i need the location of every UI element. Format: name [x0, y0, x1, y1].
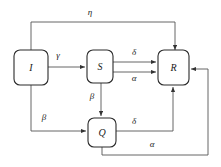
edge-delta-q-to-r: δ [116, 87, 173, 131]
node-label-s: S [98, 61, 103, 72]
node-i[interactable]: I [14, 50, 48, 85]
node-label-q: Q [98, 127, 106, 138]
edge-beta-i-to-q: β [31, 85, 86, 131]
edge-eta-i-to-r: η [31, 7, 175, 50]
edge-label-alpha-q-r: α [150, 139, 155, 149]
edge-label-delta-q-r: δ [132, 116, 137, 126]
edge-beta-s-to-q: β [89, 83, 101, 116]
edge-label-delta-s-r: δ [132, 47, 137, 57]
edge-label-beta-s-q: β [89, 91, 95, 101]
edge-delta-s-to-r: δ [113, 47, 156, 62]
diagram-canvas: η β γ δ α β δ [0, 0, 221, 167]
node-q[interactable]: Q [88, 118, 116, 147]
node-label-r: R [169, 62, 176, 73]
edge-gamma-i-to-s: γ [48, 50, 85, 67]
edge-label-alpha-s-r: α [132, 73, 137, 83]
edge-label-beta-i-q: β [41, 112, 47, 122]
edge-alpha-q-to-r: α [102, 69, 208, 155]
node-r[interactable]: R [158, 50, 189, 85]
edge-alpha-s-to-r: α [113, 72, 156, 83]
edge-label-eta: η [88, 7, 93, 17]
diagram-container: η β γ δ α β δ [0, 0, 221, 167]
edge-label-gamma: γ [56, 50, 60, 60]
node-s[interactable]: S [87, 50, 113, 83]
node-label-i: I [28, 62, 33, 73]
